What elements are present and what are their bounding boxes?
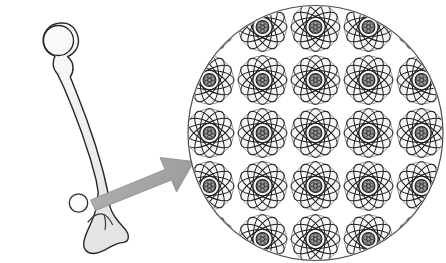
sample-region-marker[interactable] [69,194,87,212]
scene-svg [0,0,446,263]
bone-outline [43,23,128,253]
bone-figure [43,23,128,253]
atom-lattice [184,1,446,263]
illustration-canvas: Bone magnified to atomic structure [0,0,446,263]
magnifier-lens [184,1,446,263]
